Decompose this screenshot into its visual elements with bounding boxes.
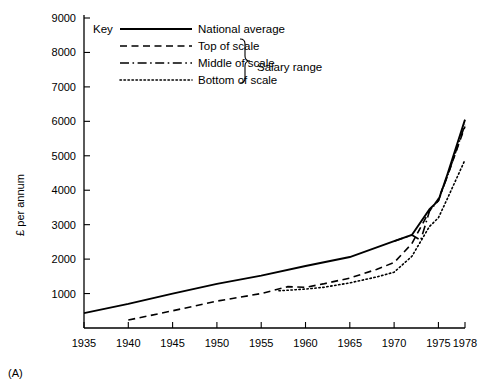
legend-label: Top of scale — [198, 40, 259, 52]
legend-entries: National averageTop of scaleMiddle of sc… — [120, 23, 285, 86]
x-tick-label: 1970 — [382, 337, 406, 349]
salary-range-label: Salary range — [257, 61, 322, 73]
y-tick-label: 4000 — [52, 184, 76, 196]
x-tick-label: 1975 — [426, 337, 450, 349]
x-tick-label: 1945 — [160, 337, 184, 349]
x-tick-label: 1940 — [116, 337, 140, 349]
series-line-bottom-of-scale — [279, 160, 465, 291]
series-line-top-of-scale — [128, 127, 465, 321]
series-line-national-average — [84, 120, 465, 314]
x-tick-label: 1935 — [72, 337, 96, 349]
y-axis-tick-labels: 100020003000400050006000700080009000 — [52, 12, 76, 300]
legend: Key National averageTop of scaleMiddle o… — [93, 23, 322, 86]
x-axis-ticks — [84, 322, 465, 328]
panel-label: (A) — [8, 367, 23, 379]
legend-title: Key — [93, 23, 113, 35]
y-axis-ticks — [84, 18, 90, 294]
x-tick-label: 1960 — [293, 337, 317, 349]
x-axis-tick-labels: 1935194019451950195519601965197019751978 — [72, 337, 477, 349]
y-axis-title: £ per annum — [14, 174, 26, 236]
y-tick-label: 8000 — [52, 46, 76, 58]
x-tick-label: 1965 — [338, 337, 362, 349]
line-chart-canvas: 100020003000400050006000700080009000 193… — [0, 0, 478, 389]
series-line-middle-of-scale — [394, 125, 465, 241]
chart-figure: 100020003000400050006000700080009000 193… — [0, 0, 478, 389]
y-tick-label: 6000 — [52, 115, 76, 127]
x-tick-label: 1978 — [453, 337, 477, 349]
legend-label: Bottom of scale — [198, 74, 277, 86]
legend-label: National average — [198, 23, 285, 35]
y-tick-label: 9000 — [52, 12, 76, 24]
x-tick-label: 1950 — [205, 337, 229, 349]
data-series-group — [84, 120, 465, 320]
y-tick-label: 5000 — [52, 150, 76, 162]
x-tick-label: 1955 — [249, 337, 273, 349]
y-tick-label: 7000 — [52, 81, 76, 93]
y-tick-label: 3000 — [52, 219, 76, 231]
y-tick-label: 1000 — [52, 288, 76, 300]
y-tick-label: 2000 — [52, 253, 76, 265]
